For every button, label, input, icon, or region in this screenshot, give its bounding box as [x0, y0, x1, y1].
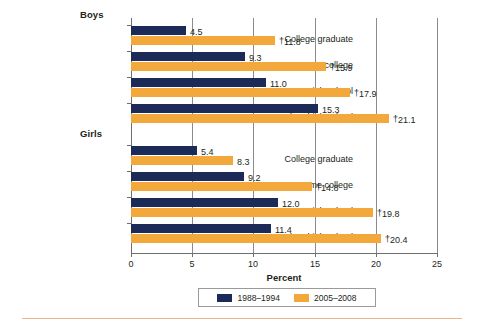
- footnote-marker: †: [279, 36, 284, 46]
- value-text: 17.9: [359, 89, 377, 99]
- legend-swatch-icon: [294, 294, 309, 302]
- footnote-marker: †: [316, 182, 321, 192]
- bar-2005-2008: [131, 88, 350, 97]
- value-text: 19.8: [382, 209, 400, 219]
- bar-value: †21.1: [393, 116, 416, 125]
- gridline-25: [437, 18, 438, 253]
- bar-1988-1994: [131, 26, 186, 35]
- footnote-marker: †: [377, 208, 382, 218]
- footnote-marker: †: [354, 88, 359, 98]
- legend-item-1988-1994: 1988–1994: [217, 293, 280, 303]
- x-tick: [376, 253, 377, 257]
- x-tick: [437, 253, 438, 257]
- bar-1988-1994: [131, 172, 244, 181]
- bar-2005-2008: [131, 62, 326, 71]
- bar-value: †15.9: [330, 64, 353, 73]
- legend-label: 2005–2008: [314, 293, 357, 303]
- x-tick: [131, 253, 132, 257]
- x-tick-label: 25: [432, 259, 442, 269]
- bar-1988-1994: [131, 104, 318, 113]
- x-tick-label: 15: [310, 259, 320, 269]
- legend-swatch-icon: [217, 294, 232, 302]
- bar-value: †14.8: [316, 184, 339, 193]
- x-tick: [253, 253, 254, 257]
- bar-1988-1994: [131, 52, 245, 61]
- legend-item-2005-2008: 2005–2008: [294, 293, 357, 303]
- bar-value: †17.9: [354, 90, 377, 99]
- bar-1988-1994: [131, 224, 271, 233]
- bar-value: 8.3: [237, 158, 250, 167]
- footnote-marker: †: [330, 62, 335, 72]
- bar-2005-2008: [131, 114, 389, 123]
- bar-value: †11.8: [279, 38, 301, 47]
- bar-2005-2008: [131, 182, 312, 191]
- bar-value: †19.8: [377, 210, 400, 219]
- value-text: 8.3: [237, 157, 250, 167]
- bar-2005-2008: [131, 36, 275, 45]
- bar-value: †20.4: [385, 236, 408, 245]
- category-label: College graduate: [284, 154, 353, 164]
- value-text: 20.4: [390, 235, 408, 245]
- value-text: 21.1: [398, 115, 416, 125]
- bar-1988-1994: [131, 78, 266, 87]
- x-tick: [192, 253, 193, 257]
- gridline-15: [315, 18, 316, 253]
- legend-label: 1988–1994: [237, 293, 280, 303]
- value-text: 15.9: [335, 63, 353, 73]
- value-text: 11.8: [284, 37, 301, 47]
- bottom-divider: [22, 318, 462, 319]
- x-tick-label: 20: [371, 259, 381, 269]
- x-tick-label: 10: [248, 259, 258, 269]
- chart-legend: 1988–1994 2005–2008: [198, 288, 376, 307]
- x-tick: [315, 253, 316, 257]
- value-text: 14.8: [321, 183, 339, 193]
- bar-2005-2008: [131, 156, 233, 165]
- footnote-marker: †: [385, 234, 390, 244]
- group-heading-girls: Girls: [80, 128, 102, 139]
- bar-1988-1994: [131, 146, 197, 155]
- x-tick-label: 5: [189, 259, 194, 269]
- bar-1988-1994: [131, 198, 278, 207]
- footnote-marker: †: [393, 114, 398, 124]
- x-axis-line: [131, 253, 437, 254]
- x-axis-title: Percent: [131, 272, 437, 283]
- bar-2005-2008: [131, 208, 373, 217]
- chart-container: Boys College graduate 4.5 †11.8 Some col…: [0, 0, 479, 327]
- group-heading-boys: Boys: [80, 9, 104, 20]
- bar-2005-2008: [131, 234, 381, 243]
- x-tick-label: 0: [128, 259, 133, 269]
